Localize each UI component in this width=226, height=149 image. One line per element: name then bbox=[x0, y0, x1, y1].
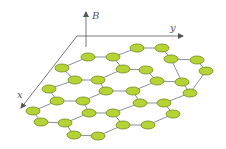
lattice-atom bbox=[116, 121, 130, 129]
lattice-atom bbox=[99, 87, 113, 95]
hexagonal-lattice-diagram: B y x bbox=[0, 0, 226, 149]
lattice-atom bbox=[126, 87, 140, 95]
lattice-atom bbox=[26, 107, 40, 115]
lattice-atom bbox=[76, 97, 90, 105]
lattice-atom bbox=[157, 99, 171, 107]
lattice-atom bbox=[130, 44, 144, 52]
lattice-atom bbox=[106, 53, 120, 61]
x-axis-label: x bbox=[17, 89, 23, 100]
lattice-atom bbox=[164, 55, 178, 63]
x-axis-arrow bbox=[21, 36, 77, 108]
lattice-atom bbox=[155, 44, 169, 52]
lattice-atom bbox=[106, 109, 120, 117]
lattice-atom bbox=[50, 97, 64, 105]
lattice-atom bbox=[58, 119, 72, 127]
y-axis-label: y bbox=[169, 22, 176, 33]
lattice-atom bbox=[34, 118, 48, 126]
lattice-atom bbox=[166, 110, 180, 118]
lattice-atom bbox=[82, 109, 96, 117]
lattice-atom bbox=[190, 56, 204, 64]
lattice-atom bbox=[183, 89, 197, 97]
lattice-atom bbox=[67, 131, 81, 139]
lattice-atom bbox=[133, 99, 147, 107]
lattice-atom bbox=[91, 76, 105, 84]
lattice-atom bbox=[81, 53, 95, 61]
lattice-atom bbox=[139, 66, 153, 74]
lattice-atom bbox=[91, 132, 105, 140]
lattice-atom bbox=[116, 65, 130, 73]
lattice-atoms bbox=[26, 44, 213, 140]
lattice-atom bbox=[55, 64, 69, 72]
b-axis-label: B bbox=[91, 10, 99, 21]
lattice-atom bbox=[141, 121, 155, 129]
lattice-atom bbox=[42, 85, 56, 93]
lattice-atom bbox=[199, 67, 213, 75]
lattice-atom bbox=[150, 77, 164, 85]
lattice-atom bbox=[68, 76, 82, 84]
lattice-atom bbox=[175, 78, 189, 86]
